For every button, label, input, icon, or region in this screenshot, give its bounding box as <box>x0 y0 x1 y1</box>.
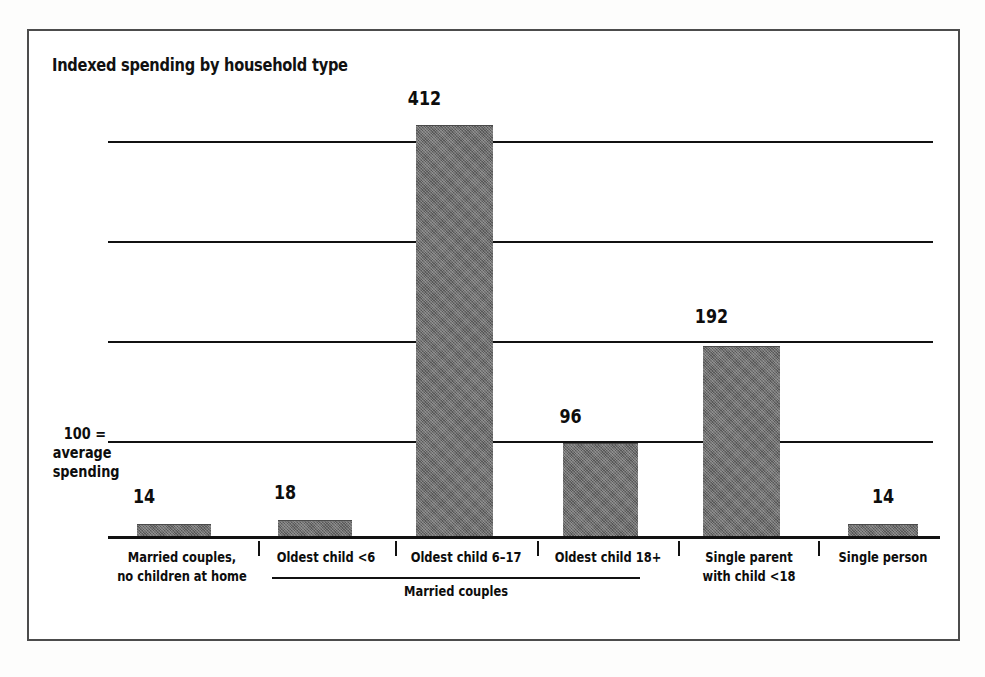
category-label-oldest-child-under-6: Oldest child <6 <box>267 548 386 567</box>
category-label-line-1: Single person <box>828 548 939 567</box>
category-tick-5 <box>818 541 820 556</box>
gridline-400 <box>108 141 933 143</box>
y-axis-annotation-line-1: 100 = <box>53 425 106 444</box>
category-label-oldest-child-6-17: Oldest child 6–17 <box>405 548 527 567</box>
category-label-line-1: Oldest child <6 <box>267 548 386 567</box>
group-bracket-line <box>272 577 640 579</box>
gridline-300 <box>108 241 933 243</box>
gridline-100 <box>108 441 933 443</box>
bar-value-married-no-children: 14 <box>113 485 175 507</box>
category-label-line-1: Oldest child 18+ <box>548 548 669 567</box>
y-axis-annotation-line-3: spending <box>53 463 106 482</box>
y-axis-annotation-line-2: average <box>53 444 106 463</box>
bar-oldest-child-6-17[interactable] <box>416 125 493 539</box>
plot-area <box>108 110 933 539</box>
group-bracket-label: Married couples <box>300 583 613 599</box>
category-label-oldest-child-18-plus: Oldest child 18+ <box>548 548 669 567</box>
bar-value-single-person: 14 <box>854 485 913 507</box>
chart-figure: Indexed spending by household type 100 =… <box>0 0 985 677</box>
chart-title: Indexed spending by household type <box>52 55 348 75</box>
y-axis-annotation: 100 = average spending <box>53 425 106 482</box>
category-label-line-2: no children at home <box>116 567 249 586</box>
x-axis-baseline <box>108 536 940 539</box>
category-label-single-person: Single person <box>828 548 939 567</box>
category-label-married-no-children: Married couples, no children at home <box>116 548 249 586</box>
category-label-line-1: Oldest child 6–17 <box>405 548 527 567</box>
category-label-line-1: Married couples, <box>116 548 249 567</box>
bar-value-single-parent-child-under-18: 192 <box>679 305 744 327</box>
category-tick-1 <box>258 541 260 556</box>
bar-single-parent-child-under-18[interactable] <box>703 346 780 539</box>
category-label-line-2: with child <18 <box>690 567 807 586</box>
category-tick-3 <box>537 541 539 556</box>
category-label-line-1: Single parent <box>690 548 807 567</box>
bar-value-oldest-child-6-17: 412 <box>392 87 457 109</box>
bar-oldest-child-18-plus[interactable] <box>563 443 638 539</box>
category-tick-2 <box>395 541 397 556</box>
category-label-single-parent-child-under-18: Single parent with child <18 <box>690 548 807 586</box>
gridline-200 <box>108 341 933 343</box>
bar-value-oldest-child-18-plus: 96 <box>539 405 602 427</box>
category-tick-4 <box>678 541 680 556</box>
bar-value-oldest-child-under-6: 18 <box>254 481 316 503</box>
